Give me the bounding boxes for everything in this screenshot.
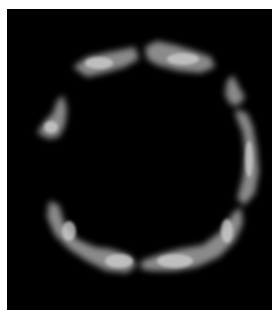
ring-structure <box>7 9 272 310</box>
segment-right-upper <box>225 75 245 105</box>
highlight <box>44 121 58 133</box>
highlight <box>245 141 253 177</box>
highlight <box>105 254 133 268</box>
highlight <box>221 219 233 243</box>
highlight <box>157 254 193 268</box>
microscopy-image <box>7 9 272 310</box>
highlight <box>62 221 76 241</box>
highlight <box>167 53 199 65</box>
ring-highlights <box>44 53 253 268</box>
highlight <box>85 57 113 69</box>
